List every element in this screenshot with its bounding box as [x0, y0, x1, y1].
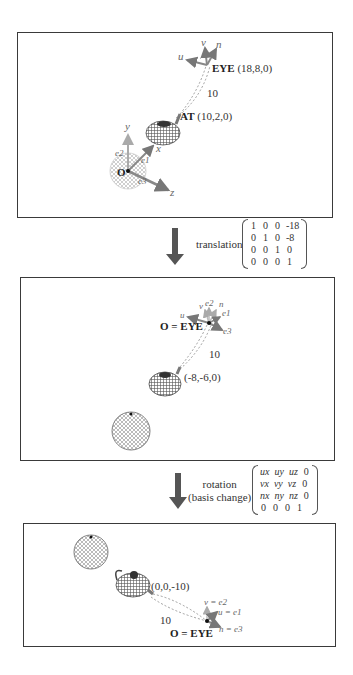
eye-coordinate: (18,8,0): [237, 62, 272, 74]
step-label-rotation-line2: (basis change): [188, 491, 251, 503]
distance-label: 10: [207, 87, 218, 99]
v-axis: [205, 48, 207, 65]
axis-label-n: n: [216, 38, 222, 50]
v-equals-e2-label: v = e2: [204, 597, 227, 607]
teapot-coordinate: (-8,-6,0): [184, 371, 221, 383]
axis-label-y: y: [125, 120, 130, 132]
eye-text: EYE: [212, 62, 235, 74]
down-arrow-icon-2: [169, 473, 187, 509]
axis-label-e1: e1: [141, 155, 150, 165]
axis-label-e2: e2: [205, 298, 214, 308]
axis-label-v: v: [199, 301, 203, 311]
axis-label-e3: e3: [138, 176, 147, 186]
rotation-matrix: uxuyuz0 vxvyvz0 nxnynz0 0001: [252, 465, 318, 515]
u-axis: [187, 60, 207, 65]
eye-label: EYE (18,8,0): [212, 62, 272, 74]
teapot-coordinate: (0,0,-10): [151, 580, 190, 592]
axis-label-e1: e1: [222, 308, 231, 318]
axis-label-z: z: [170, 186, 174, 198]
n-equals-e3-label: n = e3: [219, 624, 243, 634]
at-coordinate: (10,2,0): [197, 110, 232, 122]
translation-matrix: 100-18 010-8 0010 0001: [242, 219, 307, 269]
axis-label-v: v: [201, 36, 206, 48]
distance-label: 10: [160, 614, 171, 626]
distance-label: 10: [209, 348, 220, 360]
step-label-rotation: rotation (basis change): [188, 478, 251, 504]
at-text: AT: [180, 110, 194, 122]
axis-label-e3: e3: [223, 326, 232, 336]
axis-label-u: u: [178, 50, 184, 62]
step-label-translation: translation: [196, 238, 242, 251]
panel-after-translation: [20, 277, 335, 461]
down-arrow-icon-1: [166, 228, 184, 265]
axis-label-e2: e2: [115, 148, 124, 158]
origin-eye-label: O = EYE: [170, 627, 213, 639]
u-equals-e1-label: u = e1: [218, 607, 242, 617]
at-label: AT (10,2,0): [180, 110, 232, 122]
step-label-rotation-line1: rotation: [203, 478, 237, 490]
axis-label-x: x: [156, 142, 161, 154]
origin-eye-label: O = EYE: [160, 320, 203, 332]
axis-label-u: u: [180, 310, 185, 320]
origin-label: O: [117, 166, 126, 178]
